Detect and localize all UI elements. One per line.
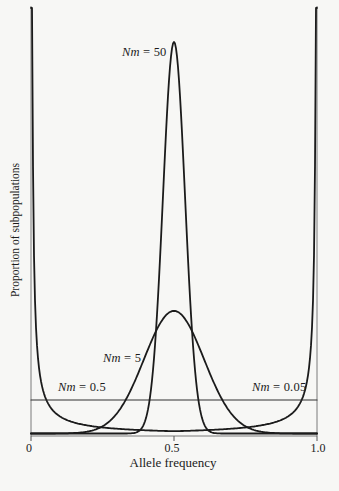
curve-label-nm-50-var: Nm xyxy=(122,45,140,59)
curve-label-nm-50-value: = 50 xyxy=(140,45,167,59)
curve-label-nm-5: Nm = 5 xyxy=(103,351,141,366)
curve-nm-5 xyxy=(31,311,317,434)
curve-label-nm-0.05-var: Nm xyxy=(252,380,270,394)
plot-canvas xyxy=(0,0,339,491)
curve-label-nm-0.5-value: = 0.5 xyxy=(76,380,106,394)
allele-frequency-distribution-figure: Nm = 50 Nm = 5 Nm = 0.5 Nm = 0.05 0 0.5 … xyxy=(0,0,339,491)
curve-label-nm-0.5-var: Nm xyxy=(58,380,76,394)
x-tick-label-0.5: 0.5 xyxy=(165,441,180,456)
curve-label-nm-50: Nm = 50 xyxy=(122,45,167,60)
x-tick-label-1.0: 1.0 xyxy=(311,441,326,456)
curve-label-nm-0.5: Nm = 0.5 xyxy=(58,380,106,395)
curve-label-nm-0.05-value: = 0.05 xyxy=(270,380,307,394)
curve-label-nm-0.05: Nm = 0.05 xyxy=(252,380,306,395)
x-axis-title: Allele frequency xyxy=(130,455,217,471)
curve-nm-0.05 xyxy=(31,8,317,431)
x-tick-label-0: 0 xyxy=(26,441,32,456)
y-axis-title: Proportion of subpopulations xyxy=(9,163,21,297)
curve-label-nm-5-var: Nm xyxy=(103,351,121,365)
curve-nm-50 xyxy=(31,42,317,434)
curve-label-nm-5-value: = 5 xyxy=(121,351,141,365)
